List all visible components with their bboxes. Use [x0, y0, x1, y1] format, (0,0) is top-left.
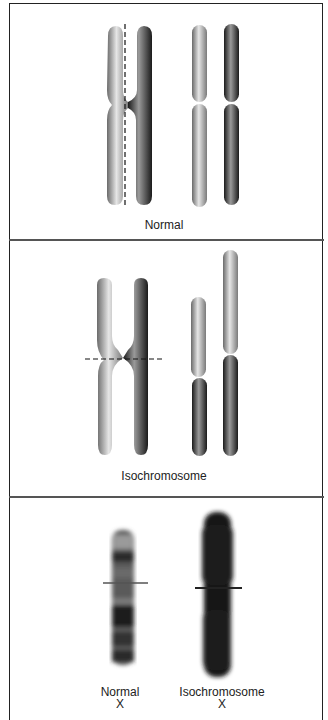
panel-label-normal: Normal — [0, 218, 328, 232]
normal-sister-chromatid-dark — [128, 26, 152, 205]
iso-sister-chromatid-dark — [123, 278, 148, 455]
iso-daughter-chromosome-short — [191, 297, 207, 456]
caption-isochromosome-x: Isochromosome X — [172, 686, 272, 710]
panel-label-isochromosome: Isochromosome — [0, 469, 328, 483]
iso-sister-chromatid-light — [97, 278, 123, 455]
normal-daughter-chromosome-light — [192, 25, 207, 207]
iso-daughter-chromosome-long — [223, 250, 238, 456]
isochromosome-x-photo — [202, 512, 233, 677]
caption-normal-x-line2: X — [80, 698, 160, 710]
chromosome-diagram — [0, 0, 328, 720]
normal-x-chromosome-photo — [112, 530, 134, 665]
caption-iso-x-line2: X — [172, 698, 272, 710]
normal-daughter-chromosome-dark — [224, 24, 239, 205]
caption-normal-x: Normal X — [80, 686, 160, 710]
